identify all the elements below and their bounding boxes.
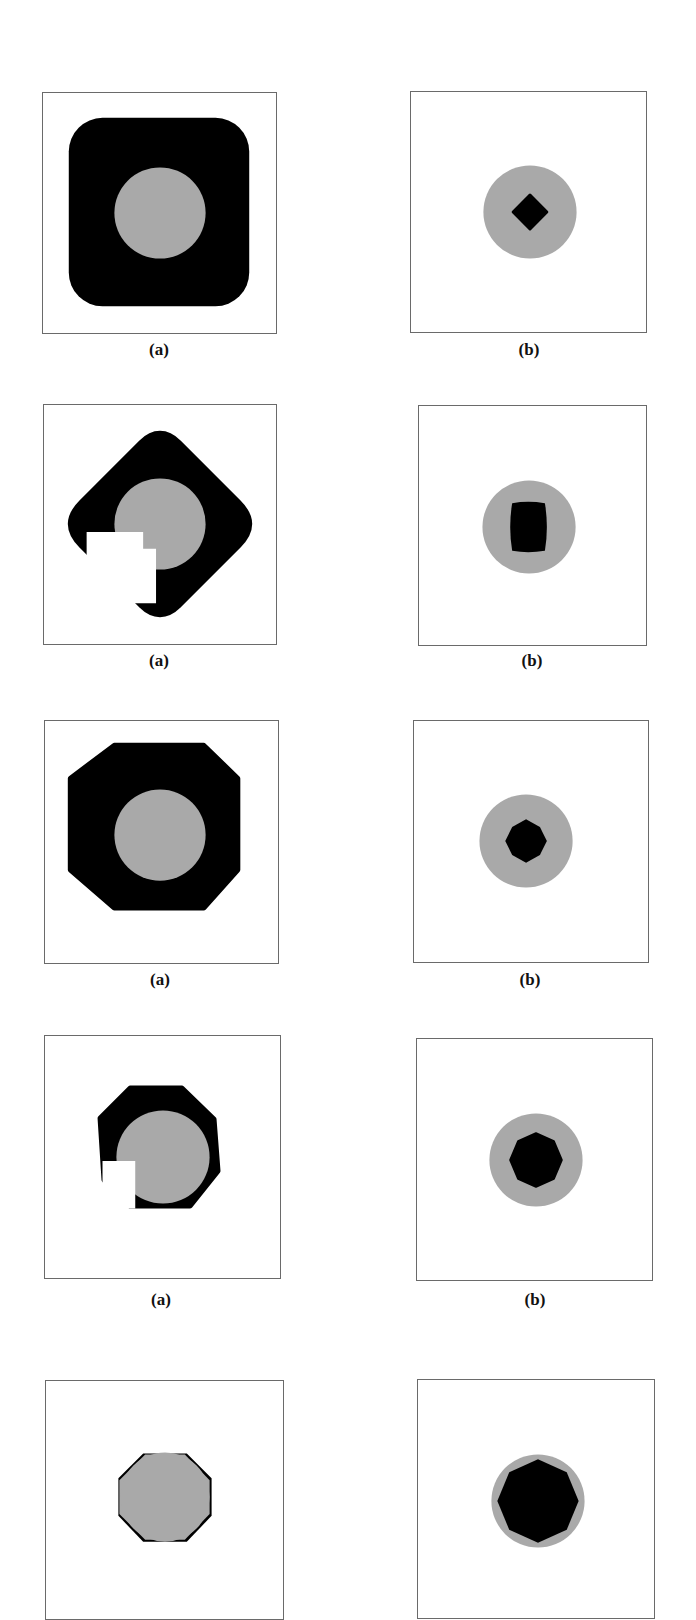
caption-row1-b: (b): [519, 340, 540, 360]
caption-row2-b: (b): [522, 651, 543, 671]
panel-row4-a: [44, 1035, 281, 1279]
caption-row4-a: (a): [151, 1290, 171, 1310]
panel-row3-a: [44, 720, 279, 964]
gray-octagon-shape: [46, 1381, 283, 1619]
rounded-square-shape: [43, 93, 276, 333]
panel-row4-b: [416, 1038, 653, 1281]
panel-row2-b: [418, 405, 647, 646]
panel-row1-b: [410, 91, 647, 333]
caption-row4-b: (b): [525, 1290, 546, 1310]
caption-row1-a: (a): [149, 340, 169, 360]
panel-row1-a: [42, 92, 277, 334]
large-octagon-in-circle-shape: [418, 1380, 654, 1618]
caption-row3-a: (a): [150, 970, 170, 990]
panel-row5-b: [417, 1379, 655, 1619]
small-octagon-in-circle-shape: [414, 721, 648, 962]
caption-row2-a: (a): [149, 651, 169, 671]
panel-row5-a: [45, 1380, 284, 1620]
octagon-in-circle-shape: [417, 1039, 652, 1280]
panel-row2-a: [43, 404, 277, 645]
square-in-circle-shape: [419, 406, 646, 645]
panel-row3-b: [413, 720, 649, 963]
occluder: [103, 1161, 136, 1209]
octagon-shape: [45, 721, 278, 963]
octagonal-ring-shape: [45, 1036, 280, 1278]
rounded-diamond-shape: [44, 405, 276, 644]
caption-row3-b: (b): [520, 970, 541, 990]
diamond-in-circle-shape: [411, 92, 646, 332]
